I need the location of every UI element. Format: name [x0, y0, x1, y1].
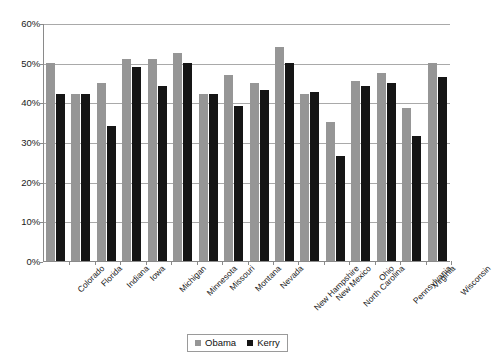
- x-tick-label: Montana: [254, 264, 283, 293]
- bar-kerry: [310, 92, 319, 261]
- x-tick-label: Wisconsin: [459, 264, 492, 297]
- bar-group: [273, 24, 298, 261]
- bar-kerry: [336, 156, 345, 261]
- bar-group: [400, 24, 425, 261]
- y-tick-label: 40%: [4, 98, 40, 108]
- bar-kerry: [107, 126, 116, 261]
- bar-kerry: [183, 63, 192, 261]
- bar-kerry: [438, 77, 447, 261]
- x-tick-label: Iowa: [148, 264, 167, 283]
- y-tick-label: 60%: [4, 19, 40, 29]
- bar-kerry: [260, 90, 269, 261]
- y-tick-label: 10%: [4, 217, 40, 227]
- legend-label: Obama: [205, 337, 236, 348]
- y-axis: 0%10%20%30%40%50%60%: [0, 0, 40, 363]
- bar-kerry: [158, 86, 167, 261]
- bar-obama: [97, 83, 106, 262]
- bar-group: [324, 24, 349, 261]
- bar-group: [426, 24, 451, 261]
- y-tick-label: 20%: [4, 178, 40, 188]
- bar-obama: [351, 81, 360, 261]
- bar-group: [171, 24, 196, 261]
- legend-item-kerry[interactable]: Kerry: [247, 337, 280, 348]
- x-tick-label: Michigan: [178, 264, 208, 294]
- legend-swatch-icon: [247, 340, 253, 346]
- chart-legend: ObamaKerry: [187, 334, 288, 352]
- x-tick-label: Nevada: [278, 264, 305, 291]
- bar-kerry: [209, 94, 218, 261]
- bar-group: [222, 24, 247, 261]
- y-tick-label: 50%: [4, 59, 40, 69]
- bar-obama: [428, 63, 437, 261]
- bar-obama: [250, 83, 259, 262]
- plot-area: [43, 24, 450, 262]
- bar-kerry: [81, 94, 90, 261]
- bar-kerry: [132, 67, 141, 261]
- bar-group: [349, 24, 374, 261]
- bar-group: [197, 24, 222, 261]
- bar-kerry: [361, 86, 370, 261]
- legend-swatch-icon: [195, 340, 201, 346]
- bar-group: [95, 24, 120, 261]
- bar-obama: [224, 75, 233, 261]
- bar-obama: [122, 59, 131, 261]
- legend-label: Kerry: [257, 337, 280, 348]
- bar-kerry: [412, 136, 421, 261]
- bar-group: [120, 24, 145, 261]
- bar-group: [69, 24, 94, 261]
- bar-obama: [402, 108, 411, 261]
- bar-obama: [300, 94, 309, 261]
- y-tick-label: 30%: [4, 138, 40, 148]
- x-tick-label: Virginia: [431, 264, 457, 290]
- bar-group: [248, 24, 273, 261]
- legend-item-obama[interactable]: Obama: [195, 337, 236, 348]
- bar-obama: [46, 63, 55, 261]
- bar-kerry: [234, 106, 243, 261]
- bar-obama: [148, 59, 157, 261]
- bar-kerry: [285, 63, 294, 261]
- bar-group: [146, 24, 171, 261]
- bar-group: [44, 24, 69, 261]
- bar-kerry: [387, 83, 396, 262]
- y-tick-label: 0%: [4, 257, 40, 267]
- bar-kerry: [56, 94, 65, 261]
- x-tick-label: Indiana: [125, 264, 151, 290]
- bar-group: [298, 24, 323, 261]
- bar-obama: [173, 53, 182, 261]
- bar-group: [375, 24, 400, 261]
- x-axis-labels: ColoradoFloridaIndianaIowaMichiganMinnes…: [43, 264, 450, 330]
- bar-obama: [275, 47, 284, 261]
- bar-obama: [71, 94, 80, 261]
- bar-obama: [326, 122, 335, 261]
- y-tick-mark: [39, 262, 43, 263]
- bar-obama: [199, 94, 208, 261]
- bar-obama: [377, 73, 386, 261]
